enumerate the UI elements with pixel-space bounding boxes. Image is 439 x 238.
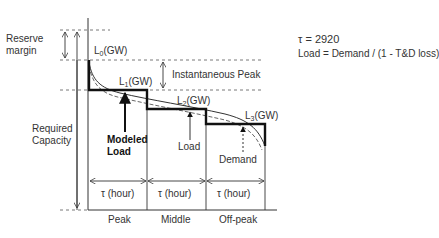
l2-label: L2(GW)	[177, 95, 210, 110]
load-label: Load	[178, 141, 200, 153]
l3-label: L3(GW)	[245, 110, 278, 125]
l1-label: L1(GW)	[119, 76, 152, 91]
required-capacity-label: Required Capacity	[32, 123, 73, 147]
required-capacity-line2: Capacity	[32, 135, 73, 147]
l0-unit: (GW)	[103, 45, 127, 56]
modeled-load-line1: Modeled	[107, 134, 148, 146]
period-offpeak: Off-peak	[219, 214, 257, 226]
reserve-margin-line2: margin	[6, 45, 43, 57]
l1-unit: (GW)	[128, 76, 152, 87]
instantaneous-peak-label: Instantaneous Peak	[172, 69, 260, 81]
tau-hour-middle: τ (hour)	[158, 188, 191, 200]
l3-unit: (GW)	[254, 110, 278, 121]
load-formula: Load = Demand / (1 - T&D loss)	[298, 48, 439, 60]
demand-label: Demand	[219, 154, 257, 166]
period-peak: Peak	[108, 214, 131, 226]
tau-value: τ = 2920	[298, 33, 339, 45]
reserve-margin-label: Reserve margin	[6, 33, 43, 57]
reference-lines	[60, 30, 262, 210]
l0-label: L0(GW)	[94, 45, 127, 60]
modeled-load-line2: Load	[107, 146, 148, 158]
modeled-load-label: Modeled Load	[107, 134, 148, 158]
period-middle: Middle	[161, 214, 190, 226]
required-capacity-line1: Required	[32, 123, 73, 135]
tau-hour-peak: τ (hour)	[101, 188, 134, 200]
l2-unit: (GW)	[186, 95, 210, 106]
tau-hour-offpeak: τ (hour)	[217, 188, 250, 200]
reserve-margin-line1: Reserve	[6, 33, 43, 45]
